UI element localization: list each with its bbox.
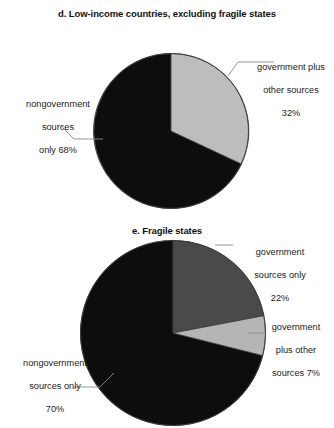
callout-e-nongovernment: nongovernment sources only 70% xyxy=(3,346,107,427)
callout-e-government-only: government sources only 22% xyxy=(232,235,328,316)
callout-line: nongovernment xyxy=(8,99,108,111)
callout-line: 70% xyxy=(3,404,107,416)
leader-line-e-government-only xyxy=(215,242,233,248)
callout-line: nongovernment xyxy=(3,358,107,370)
callout-line: government xyxy=(232,247,328,259)
callout-e-government-plus-other: government plus other sources 7% xyxy=(258,310,334,391)
chart-title-e: e. Fragile states xyxy=(92,225,242,237)
chart-panel-fragile-states: e. Fragile states government sources onl… xyxy=(0,214,334,428)
callout-line: sources xyxy=(8,122,108,134)
callout-line: government plus xyxy=(248,62,334,74)
callout-line: sources only xyxy=(232,270,328,282)
callout-line: other sources xyxy=(248,85,334,97)
callout-line: sources 7% xyxy=(258,368,334,380)
chart-panel-low-income-countries: d. Low-income countries, excluding fragi… xyxy=(0,0,334,214)
pie-chart-figure: d. Low-income countries, excluding fragi… xyxy=(0,0,334,428)
callout-d-nongovernment: nongovernment sources only 68% xyxy=(8,87,108,168)
callout-line: 22% xyxy=(232,293,328,305)
callout-d-government-plus-other: government plus other sources 32% xyxy=(248,50,334,131)
pie-chart-d xyxy=(93,53,249,209)
callout-line: only 68% xyxy=(8,145,108,157)
callout-line: 32% xyxy=(248,108,334,120)
callout-line: sources only xyxy=(3,381,107,393)
callout-line: government xyxy=(258,322,334,334)
chart-title-d: d. Low-income countries, excluding fragi… xyxy=(57,8,277,20)
callout-line: plus other xyxy=(258,345,334,357)
